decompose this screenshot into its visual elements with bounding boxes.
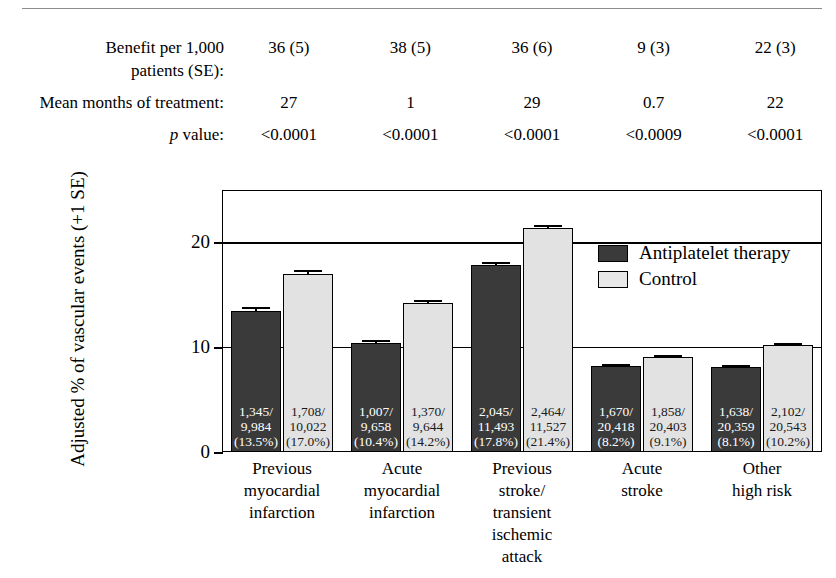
- chart-legend: Antiplatelet therapy Control: [598, 240, 790, 292]
- x-axis-label: Other high risk: [702, 458, 822, 568]
- error-bar-stem: [615, 364, 617, 366]
- bar-value-label: 2,464/ 11,527 (21.4%): [524, 404, 572, 449]
- bar-value-label: 2,102/ 20,543 (10.2%): [764, 404, 812, 449]
- header-row-spacer: [0, 82, 836, 91]
- bar-value-label: 1,638/ 20,359 (8.1%): [712, 404, 760, 449]
- x-axis-label: Acute stroke: [582, 458, 702, 568]
- bar-value-label: 2,045/ 11,493 (17.8%): [472, 404, 520, 449]
- legend-swatch-icon: [598, 245, 628, 262]
- header-cell: <0.0001: [471, 123, 593, 146]
- header-row-spacer: [0, 114, 836, 123]
- bar-group: 1,638/ 20,359 (8.1%)2,102/ 20,543 (10.2%…: [702, 190, 822, 452]
- x-axis-label: Previous stroke/ transient ischemic atta…: [462, 458, 582, 568]
- header-row-benefit-values: 36 (5) 38 (5) 36 (6) 9 (3) 22 (3): [228, 36, 836, 59]
- header-row-p-value: p value: <0.0001 <0.0001 <0.0001 <0.0009…: [0, 123, 836, 146]
- header-row-mean-months-values: 27 1 29 0.7 22: [228, 91, 836, 114]
- header-cell: 36 (5): [228, 36, 350, 59]
- header-row-benefit-label: Benefit per 1,000 patients (SE):: [0, 36, 228, 82]
- legend-label: Antiplatelet therapy: [639, 242, 790, 264]
- header-cell: 36 (6): [471, 36, 593, 59]
- header-cell: <0.0009: [593, 123, 715, 146]
- legend-swatch-icon: [598, 271, 628, 288]
- bar-group: 1,345/ 9,984 (13.5%)1,708/ 10,022 (17.0%…: [222, 190, 342, 452]
- bar-group: 2,045/ 11,493 (17.8%)2,464/ 11,527 (21.4…: [462, 190, 582, 452]
- header-cell: 38 (5): [350, 36, 472, 59]
- y-axis-tick-label: 0: [150, 442, 210, 461]
- x-axis-label: Acute myocardial infarction: [342, 458, 462, 568]
- error-bar-stem: [495, 262, 497, 266]
- header-cell: 1: [350, 91, 472, 114]
- header-row-benefit: Benefit per 1,000 patients (SE): 36 (5) …: [0, 36, 836, 82]
- bar-chart: Adjusted % of vascular events (+1 SE) 01…: [0, 186, 836, 578]
- bar-value-label: 1,858/ 20,403 (9.1%): [644, 404, 692, 449]
- bar: 1,007/ 9,658 (10.4%): [351, 343, 401, 452]
- legend-label: Control: [639, 268, 697, 290]
- header-stats-table: Benefit per 1,000 patients (SE): 36 (5) …: [0, 36, 836, 146]
- y-axis-tick-label: 20: [150, 232, 210, 251]
- bar-group: 1,670/ 20,418 (8.2%)1,858/ 20,403 (9.1%): [582, 190, 702, 452]
- legend-item-control: Control: [598, 266, 790, 292]
- bar-value-label: 1,370/ 9,644 (14.2%): [404, 404, 452, 449]
- bars-layer: 1,345/ 9,984 (13.5%)1,708/ 10,022 (17.0%…: [222, 190, 822, 452]
- header-cell: 22: [714, 91, 836, 114]
- legend-item-antiplatelet: Antiplatelet therapy: [598, 240, 790, 266]
- bar: 1,708/ 10,022 (17.0%): [283, 274, 333, 452]
- y-axis-tick: [214, 452, 223, 454]
- error-bar-stem: [307, 270, 309, 274]
- bar: 1,638/ 20,359 (8.1%): [711, 367, 761, 452]
- error-bar-stem: [255, 307, 257, 311]
- header-cell: <0.0001: [228, 123, 350, 146]
- bar-value-label: 1,708/ 10,022 (17.0%): [284, 404, 332, 449]
- y-axis-title: Adjusted % of vascular events (+1 SE): [67, 169, 89, 469]
- x-axis-labels: Previous myocardial infarctionAcute myoc…: [222, 458, 822, 568]
- header-cell: 27: [228, 91, 350, 114]
- bar-value-label: 1,007/ 9,658 (10.4%): [352, 404, 400, 449]
- bar: 1,345/ 9,984 (13.5%): [231, 311, 281, 452]
- error-bar-stem: [735, 365, 737, 367]
- error-bar-stem: [667, 355, 669, 357]
- x-axis-label: Previous myocardial infarction: [222, 458, 342, 568]
- error-bar-stem: [375, 340, 377, 343]
- header-cell: 22 (3): [714, 36, 836, 59]
- header-row-mean-months: Mean months of treatment: 27 1 29 0.7 22: [0, 91, 836, 114]
- bar: 2,045/ 11,493 (17.8%): [471, 265, 521, 452]
- top-divider-rule: [22, 8, 822, 9]
- error-bar-stem: [787, 343, 789, 345]
- header-cell: 9 (3): [593, 36, 715, 59]
- header-row-p-value-values: <0.0001 <0.0001 <0.0001 <0.0009 <0.0001: [228, 123, 836, 146]
- header-row-p-value-label: p value:: [0, 123, 228, 146]
- bar: 2,464/ 11,527 (21.4%): [523, 228, 573, 452]
- header-cell: <0.0001: [714, 123, 836, 146]
- bar: 1,670/ 20,418 (8.2%): [591, 366, 641, 452]
- bar-group: 1,007/ 9,658 (10.4%)1,370/ 9,644 (14.2%): [342, 190, 462, 452]
- header-cell: <0.0001: [350, 123, 472, 146]
- header-row-mean-months-label: Mean months of treatment:: [0, 91, 228, 114]
- bar: 1,858/ 20,403 (9.1%): [643, 357, 693, 452]
- bar-value-label: 1,345/ 9,984 (13.5%): [232, 404, 280, 449]
- header-cell: 0.7: [593, 91, 715, 114]
- error-bar-stem: [427, 300, 429, 304]
- bar-value-label: 1,670/ 20,418 (8.2%): [592, 404, 640, 449]
- bar: 2,102/ 20,543 (10.2%): [763, 345, 813, 452]
- y-axis-tick-label: 10: [150, 337, 210, 356]
- bar: 1,370/ 9,644 (14.2%): [403, 303, 453, 452]
- header-cell: 29: [471, 91, 593, 114]
- error-bar-stem: [547, 225, 549, 228]
